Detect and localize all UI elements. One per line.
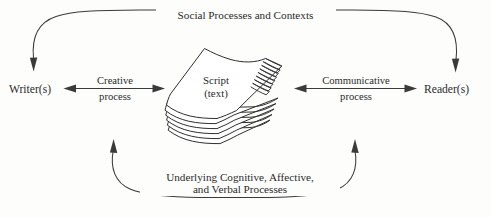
communicative-process-label-line1: Communicative: [322, 75, 390, 86]
communicative-process-label-line2: process: [340, 91, 372, 102]
bottom-arc-label-line1: Underlying Cognitive, Affective,: [166, 171, 314, 183]
paper-stack-icon: Script (text): [165, 49, 282, 144]
writer-node-label: Writer(s): [9, 83, 51, 96]
creative-process-label-line2: process: [99, 91, 131, 102]
communicative-process-left-arrowhead-icon: [294, 85, 307, 93]
creative-process-left-arrowhead-icon: [64, 85, 77, 93]
script-label-line1: Script: [203, 74, 229, 86]
top-arc-label: Social Processes and Contexts: [178, 9, 314, 21]
bottom-arc-label-line2: and Verbal Processes: [193, 183, 287, 195]
diagram-svg: Social Processes and Contexts Underlying…: [0, 0, 491, 217]
creative-process-label-line1: Creative: [97, 75, 133, 86]
creative-process-connector: Creative process: [64, 74, 166, 102]
bottom-arc-right-arrowhead-icon: [351, 139, 358, 153]
bottom-arc-group: Underlying Cognitive, Affective, and Ver…: [110, 139, 359, 197]
reader-node-label: Reader(s): [424, 83, 469, 96]
top-arc-left-arrowhead-icon: [30, 58, 37, 72]
communicative-process-right-arrowhead-icon: [405, 85, 418, 93]
creative-process-right-arrowhead-icon: [153, 85, 166, 93]
diagram-canvas: Social Processes and Contexts Underlying…: [0, 0, 491, 217]
bottom-arc-left-arrowhead-icon: [110, 139, 117, 153]
communicative-process-connector: Communicative process: [294, 74, 417, 102]
top-arc-right-arrowhead-icon: [452, 59, 459, 73]
script-label-line2: (text): [204, 87, 228, 100]
